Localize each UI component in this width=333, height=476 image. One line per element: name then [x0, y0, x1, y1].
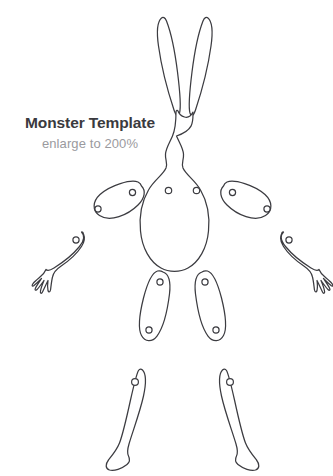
left-thigh-piece	[140, 271, 170, 341]
monster-template-artwork	[0, 0, 333, 476]
right-thigh-hole-knee	[213, 327, 219, 333]
left-lower-leg-with-foot-piece	[106, 369, 145, 470]
left-thigh-hole-hip	[157, 279, 163, 285]
monster-template-sheet: Monster Template enlarge to 200%	[0, 0, 333, 476]
left-upper-arm-hole-elbow	[95, 206, 101, 212]
left-upper-arm-piece	[94, 181, 144, 218]
right-upper-arm-hole-elbow	[264, 206, 270, 212]
left-lower-leg-hole-knee	[132, 379, 139, 386]
head-and-body-piece	[157, 17, 180, 115]
right-forearm-hole-elbow	[286, 237, 292, 243]
left-thigh-hole-knee	[146, 327, 152, 333]
right-upper-arm-hole-shoulder	[229, 189, 235, 195]
left-upper-arm-hole-shoulder	[129, 189, 135, 195]
body-joint-hole-right	[193, 187, 199, 193]
right-lower-leg-with-foot-piece	[219, 369, 258, 470]
right-upper-arm-piece	[221, 181, 271, 218]
left-forearm-hole-elbow	[73, 237, 79, 243]
right-thigh-hole-hip	[202, 279, 208, 285]
right-ear	[189, 17, 212, 115]
right-thigh-piece	[195, 271, 225, 341]
body-joint-hole-left	[165, 187, 171, 193]
right-lower-leg-hole-knee	[227, 379, 234, 386]
